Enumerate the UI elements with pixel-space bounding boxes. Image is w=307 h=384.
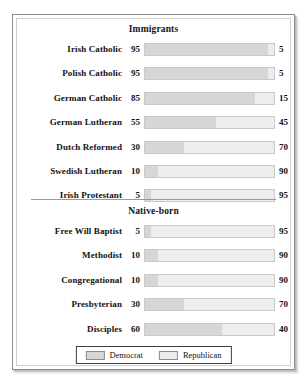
- bar-segment-republican: [158, 275, 274, 286]
- rows-native-born: Free Will Baptist595Methodist1090Congreg…: [17, 221, 290, 343]
- row-republican-value: 90: [279, 166, 297, 176]
- stacked-bar: [144, 67, 275, 80]
- bar-segment-democrat: [145, 68, 268, 79]
- bar-segment-democrat: [145, 166, 158, 177]
- bar-segment-democrat: [145, 250, 158, 261]
- table-row: Methodist1090: [17, 245, 290, 269]
- row-label: Dutch Reformed: [17, 142, 122, 152]
- panel-native-born: Native-born Free Will Baptist595Methodis…: [17, 205, 290, 343]
- table-row: Swedish Lutheran1090: [17, 161, 290, 185]
- row-democrat-value: 60: [122, 324, 140, 334]
- rows-immigrants: Irish Catholic955Polish Catholic955Germa…: [17, 39, 290, 210]
- stacked-bar: [144, 298, 275, 311]
- legend-swatch-democrat: [85, 351, 104, 360]
- legend: Democrat Republican: [75, 346, 231, 364]
- bar-segment-republican: [255, 93, 274, 104]
- bar-segment-democrat: [145, 324, 222, 335]
- row-democrat-value: 10: [122, 166, 140, 176]
- stacked-bar: [144, 274, 275, 287]
- row-label: Presbyterian: [17, 299, 122, 309]
- table-row: German Lutheran5545: [17, 112, 290, 136]
- bar-segment-republican: [184, 299, 274, 310]
- legend-label-republican: Republican: [183, 350, 222, 360]
- row-republican-value: 15: [279, 93, 297, 103]
- stacked-bar: [144, 43, 275, 56]
- panel-immigrants: Immigrants Irish Catholic955Polish Catho…: [17, 23, 290, 210]
- table-row: Congregational1090: [17, 270, 290, 294]
- chart-inner-panel: Immigrants Irish Catholic955Polish Catho…: [16, 18, 291, 366]
- row-label: Irish Catholic: [17, 44, 122, 54]
- row-label: Polish Catholic: [17, 68, 122, 78]
- row-label: Swedish Lutheran: [17, 166, 122, 176]
- panel-title-native-born: Native-born: [17, 205, 290, 218]
- row-democrat-value: 5: [122, 226, 140, 236]
- row-democrat-value: 55: [122, 117, 140, 127]
- stacked-bar: [144, 323, 275, 336]
- row-democrat-value: 30: [122, 299, 140, 309]
- table-row: Presbyterian3070: [17, 294, 290, 318]
- stacked-bar: [144, 249, 275, 262]
- row-democrat-value: 10: [122, 250, 140, 260]
- row-democrat-value: 95: [122, 68, 140, 78]
- bar-segment-democrat: [145, 275, 158, 286]
- chart-frame: Immigrants Irish Catholic955Polish Catho…: [12, 14, 295, 370]
- row-republican-value: 90: [279, 250, 297, 260]
- bar-segment-republican: [268, 68, 274, 79]
- row-republican-value: 5: [279, 68, 297, 78]
- panel-divider: [31, 199, 276, 200]
- bar-segment-republican: [184, 142, 274, 153]
- bar-segment-republican: [158, 250, 274, 261]
- row-label: Methodist: [17, 250, 122, 260]
- table-row: Dutch Reformed3070: [17, 137, 290, 161]
- legend-item-republican: Republican: [159, 350, 222, 360]
- row-democrat-value: 85: [122, 93, 140, 103]
- table-row: Polish Catholic955: [17, 63, 290, 87]
- stacked-bar: [144, 141, 275, 154]
- stacked-bar: [144, 116, 275, 129]
- table-row: Disciples6040: [17, 319, 290, 343]
- legend-item-democrat: Democrat: [85, 350, 143, 360]
- legend-swatch-republican: [159, 351, 178, 360]
- row-democrat-value: 10: [122, 275, 140, 285]
- legend-label-democrat: Democrat: [109, 350, 143, 360]
- bar-segment-republican: [222, 324, 274, 335]
- row-republican-value: 95: [279, 226, 297, 236]
- stacked-bar: [144, 92, 275, 105]
- row-label: Free Will Baptist: [17, 226, 122, 236]
- row-label: Congregational: [17, 275, 122, 285]
- row-republican-value: 5: [279, 44, 297, 54]
- table-row: German Catholic8515: [17, 88, 290, 112]
- bar-segment-democrat: [145, 299, 184, 310]
- bar-segment-republican: [268, 44, 274, 55]
- row-label: German Lutheran: [17, 117, 122, 127]
- bar-segment-democrat: [145, 142, 184, 153]
- table-row: Irish Catholic955: [17, 39, 290, 63]
- bar-segment-democrat: [145, 117, 216, 128]
- bar-segment-democrat: [145, 44, 268, 55]
- row-democrat-value: 95: [122, 44, 140, 54]
- row-republican-value: 70: [279, 142, 297, 152]
- row-republican-value: 40: [279, 324, 297, 334]
- bar-segment-republican: [151, 226, 274, 237]
- row-label: German Catholic: [17, 93, 122, 103]
- row-republican-value: 45: [279, 117, 297, 127]
- bar-segment-democrat: [145, 93, 255, 104]
- stacked-bar: [144, 165, 275, 178]
- row-republican-value: 70: [279, 299, 297, 309]
- stacked-bar: [144, 189, 275, 202]
- row-democrat-value: 30: [122, 142, 140, 152]
- table-row: Free Will Baptist595: [17, 221, 290, 245]
- bar-segment-republican: [158, 166, 274, 177]
- row-label: Disciples: [17, 324, 122, 334]
- stacked-bar: [144, 225, 275, 238]
- row-republican-value: 95: [279, 190, 297, 200]
- row-republican-value: 90: [279, 275, 297, 285]
- panel-title-immigrants: Immigrants: [17, 23, 290, 36]
- bar-segment-republican: [216, 117, 274, 128]
